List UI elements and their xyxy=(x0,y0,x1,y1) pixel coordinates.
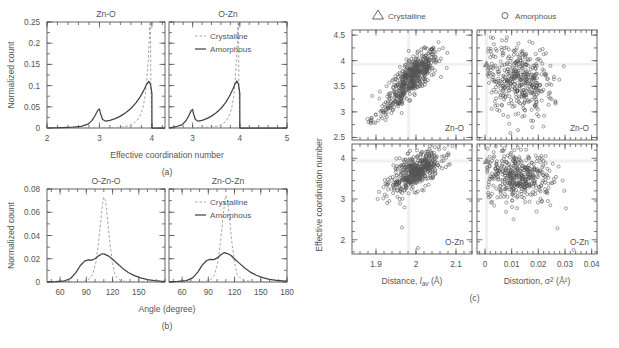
panel-b-legend-crystalline-label: Crystalline xyxy=(210,198,248,207)
outlier-point xyxy=(400,226,403,229)
panel-c-col0-xlabel: Distance, lav (Å) xyxy=(382,276,443,287)
panel-c-ylabel: Effective coordination number xyxy=(314,138,324,252)
panel-b-subplot-0-frame xyxy=(47,189,165,282)
x-tick-label: 0 xyxy=(483,260,488,269)
panel-a-subplot-title: Zn-O xyxy=(96,9,116,19)
panel-c-inset-tag: Zn-O xyxy=(570,123,590,133)
panel-b-amorphous-curve xyxy=(47,254,165,282)
x-tick-label: 90 xyxy=(204,288,214,297)
x-tick-label: 150 xyxy=(132,288,146,297)
y-tick-label: 0.06 xyxy=(24,208,40,217)
panel-a-legend-crystalline-label: Crystalline xyxy=(210,32,248,41)
panel-a-xlabel: Effective coordination number xyxy=(110,150,224,160)
y-tick-label: 0.05 xyxy=(24,103,40,112)
panel-c-inset-tag: Zn-O xyxy=(445,123,465,133)
x-tick-label: 1.9 xyxy=(370,260,382,269)
panel-c-inset-tag: O-Zn xyxy=(570,237,589,247)
x-tick-label: 120 xyxy=(106,288,120,297)
panel-b-xlabel: Angle (degree) xyxy=(139,304,196,314)
panel-a-subplot-title: O-Zn xyxy=(218,9,238,19)
x-tick-label: 3 xyxy=(190,134,195,143)
y-tick-label: 0.1 xyxy=(29,82,41,91)
triangle-marker-icon xyxy=(373,10,384,19)
panel-c-tag: (c) xyxy=(469,293,479,303)
panel-a-tag: (a) xyxy=(162,167,173,177)
y-tick-label: 4 xyxy=(340,57,345,66)
y-tick-label: 0 xyxy=(35,278,40,287)
outlier-point xyxy=(572,248,575,251)
panel-b-subplot-title: O-Zn-O xyxy=(91,176,120,186)
y-tick-label: 3 xyxy=(340,108,345,117)
panel-b-legend-amorphous-label: Amorphous xyxy=(210,211,251,220)
x-tick-label: 4 xyxy=(238,134,243,143)
x-tick-label: 5 xyxy=(285,134,290,143)
panel-a-amorphous-curve xyxy=(169,81,287,128)
panel-b-ylabel: Normalized count xyxy=(6,201,16,268)
x-tick-label: 120 xyxy=(228,288,242,297)
panel-c-inset-tag: O-Zn xyxy=(445,237,464,247)
x-tick-label: 0.01 xyxy=(504,260,520,269)
x-tick-label: 2.1 xyxy=(450,260,462,269)
x-tick-label: 2 xyxy=(45,134,50,143)
x-tick-label: 90 xyxy=(82,288,92,297)
panel-b-crystalline-curve xyxy=(169,195,287,282)
x-tick-label: 0.02 xyxy=(530,260,546,269)
y-tick-label: 0.08 xyxy=(24,185,40,194)
panel-b-subplot-title: Zn-O-Zn xyxy=(212,176,245,186)
y-tick-label: 0.25 xyxy=(24,18,40,27)
x-tick-label: 4 xyxy=(150,134,155,143)
x-tick-label: 3 xyxy=(97,134,102,143)
x-tick-label: 2 xyxy=(414,260,419,269)
outlier-point xyxy=(556,227,559,230)
panel-b-tag: (b) xyxy=(162,321,173,331)
x-tick-label: 0.03 xyxy=(557,260,573,269)
panel-c-legend-crystalline-label: Crystalline xyxy=(388,12,426,21)
y-tick-label: 0.15 xyxy=(24,60,40,69)
panel-b-amorphous-curve xyxy=(169,253,287,282)
y-tick-label: 0.02 xyxy=(24,255,40,264)
x-tick-label: 180 xyxy=(280,288,294,297)
panel-c-legend-amorphous-label: Amorphous xyxy=(515,12,556,21)
x-tick-label: 0.04 xyxy=(584,260,600,269)
outlier-point xyxy=(416,246,419,249)
panel-b-crystalline-curve xyxy=(47,197,165,282)
circle-marker-icon xyxy=(502,13,508,19)
y-tick-label: 2.5 xyxy=(334,133,346,142)
y-tick-label: 3.5 xyxy=(334,82,346,91)
y-tick-label: 4.5 xyxy=(334,31,346,40)
y-tick-label: 0.04 xyxy=(24,232,40,241)
x-tick-label: 150 xyxy=(254,288,268,297)
figure-canvas: Normalized countEffective coordination n… xyxy=(0,0,619,348)
x-tick-label: 60 xyxy=(56,288,66,297)
y-tick-label: 0 xyxy=(35,124,40,133)
x-tick-label: 60 xyxy=(178,288,188,297)
panel-a-crystalline-curve xyxy=(47,22,165,128)
panel-c-col1-xlabel: Distortion, σ2 (Å²) xyxy=(504,276,571,286)
y-tick-label: 4 xyxy=(340,154,345,163)
y-tick-label: 3 xyxy=(340,195,345,204)
panel-a-amorphous-curve xyxy=(47,81,165,128)
panel-a-legend-amorphous-label: Amorphous xyxy=(210,45,251,54)
y-tick-label: 0.2 xyxy=(29,39,41,48)
amorphous-scatter-group xyxy=(486,36,565,135)
y-tick-label: 2 xyxy=(340,236,345,245)
panel-a-ylabel: Normalized count xyxy=(6,41,16,108)
figure-root: Normalized countEffective coordination n… xyxy=(0,0,619,348)
